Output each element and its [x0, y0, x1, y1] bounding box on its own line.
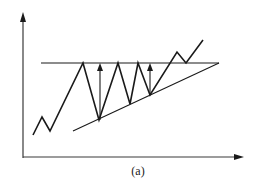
- price-path: [33, 40, 203, 135]
- support-trendline: [73, 63, 219, 131]
- figure-caption: (a): [0, 164, 276, 179]
